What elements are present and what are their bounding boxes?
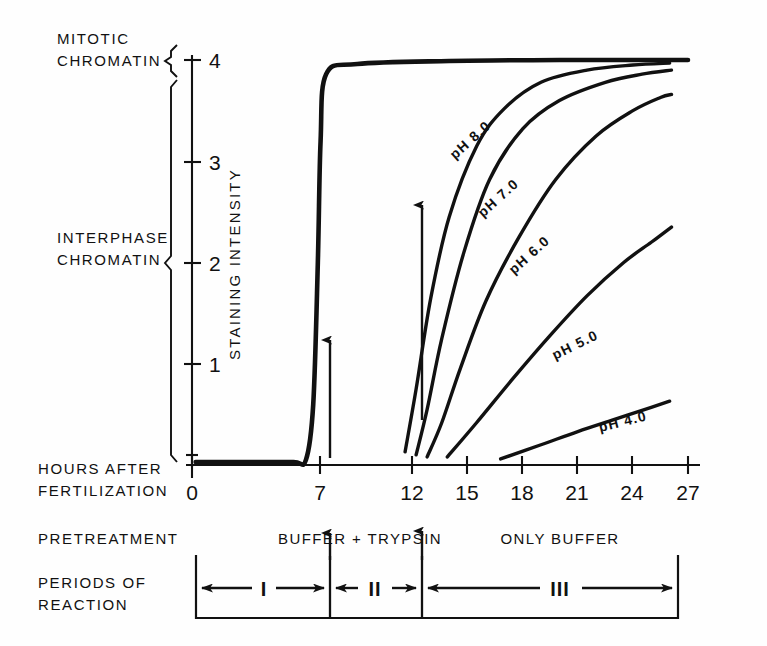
curve-label-ph-5: pH 5.0: [549, 327, 600, 363]
curve-ph-7-0: [416, 70, 671, 455]
left-category-labels: MITOTIC CHROMATIN INTERPHASE CHROMATIN H…: [38, 30, 179, 613]
x-tick-label-7: 7: [314, 481, 326, 504]
plot-annotation-arrows: [330, 205, 422, 458]
pretreatment-zone-right-label: ONLY BUFFER: [500, 530, 619, 547]
pretreatment-row: BUFFER + TRYPSIN ONLY BUFFER: [278, 530, 620, 560]
periods-of-reaction-label-line1: PERIODS OF: [38, 574, 147, 591]
periods-of-reaction-label-line2: REACTION: [38, 596, 128, 613]
figure-container: MITOTIC CHROMATIN INTERPHASE CHROMATIN H…: [0, 0, 767, 646]
periods-of-reaction-bracket: I II III: [196, 555, 678, 618]
interphase-chromatin-brace: [165, 80, 177, 462]
x-tick-label-27: 27: [676, 481, 699, 504]
x-axis-tick-labels: 0 7 12 15 18 21 24 27: [186, 481, 700, 504]
x-tick-label-18: 18: [510, 481, 533, 504]
x-tick-label-0: 0: [186, 481, 198, 504]
y-tick-label-2: 2: [209, 252, 221, 275]
curve-label-ph-8: pH 8.0: [446, 117, 493, 162]
period-label-ii: II: [368, 578, 381, 600]
periods-outer-bracket: [196, 555, 678, 618]
mitotic-chromatin-label-line2: CHROMATIN: [57, 52, 161, 69]
y-tick-label-1: 1: [209, 353, 221, 376]
x-tick-label-24: 24: [620, 481, 644, 504]
data-curves: [196, 60, 688, 465]
staining-intensity-figure: MITOTIC CHROMATIN INTERPHASE CHROMATIN H…: [0, 0, 767, 646]
curve-label-ph-6: pH 6.0: [505, 232, 552, 277]
curve-label-ph-4: pH 4.0: [597, 407, 649, 434]
interphase-chromatin-label-line1: INTERPHASE: [57, 229, 169, 246]
x-tick-label-21: 21: [565, 481, 588, 504]
period-label-i: I: [261, 578, 268, 600]
y-axis-title: STAINING INTENSITY: [226, 168, 243, 360]
mitotic-chromatin-label-line1: MITOTIC: [57, 30, 130, 47]
mitotic-chromatin-brace: [165, 45, 177, 77]
hours-after-label-line2: FERTILIZATION: [38, 482, 168, 499]
x-tick-label-15: 15: [455, 481, 478, 504]
curve-labels: pH 8.0 pH 7.0 pH 6.0 pH 5.0 pH 4.0: [446, 117, 648, 435]
y-tick-label-3: 3: [209, 151, 221, 174]
interphase-chromatin-label-line2: CHROMATIN: [57, 251, 161, 268]
y-axis-tick-labels: 4 3 2 1: [209, 49, 221, 376]
pretreatment-zone-left-label: BUFFER + TRYPSIN: [278, 530, 442, 547]
chromatin-range-braces: [165, 45, 177, 462]
period-label-iii: III: [550, 578, 570, 600]
x-tick-label-12: 12: [400, 481, 423, 504]
hours-after-label-line1: HOURS AFTER: [38, 460, 162, 477]
pretreatment-label: PRETREATMENT: [38, 530, 179, 547]
y-tick-label-4: 4: [209, 49, 221, 72]
